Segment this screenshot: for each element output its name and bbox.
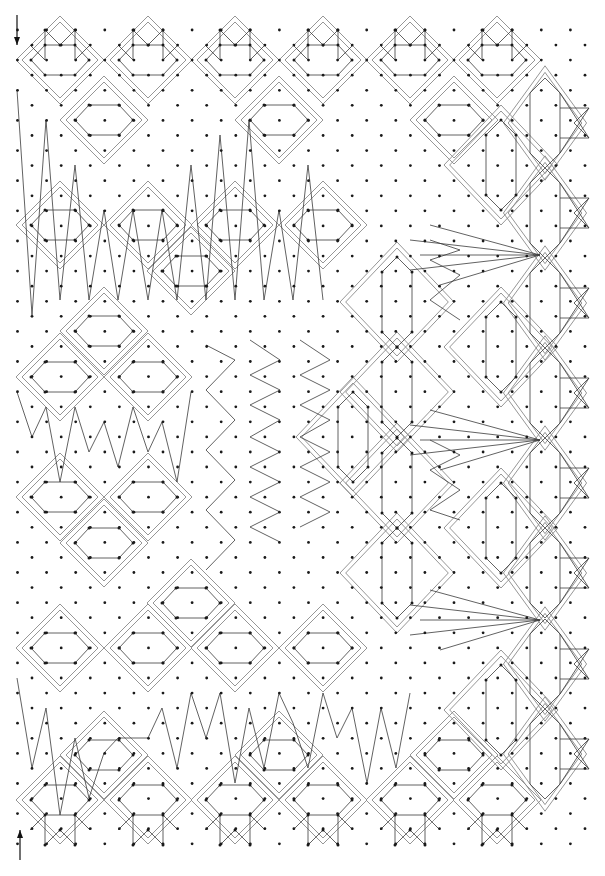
pin-dot	[60, 496, 63, 499]
pin-dot	[424, 119, 427, 122]
pin-dot	[89, 586, 92, 589]
pin-dot	[147, 586, 150, 589]
pin-dot	[60, 345, 63, 348]
pin-dot	[453, 300, 456, 303]
pin-dot	[500, 209, 503, 212]
pin-dot	[351, 526, 354, 529]
start-arrow-head-icon	[14, 37, 20, 45]
pin-dot	[118, 194, 121, 197]
pin-dot	[278, 481, 281, 484]
pin-dot	[540, 119, 543, 122]
pin-dot	[569, 631, 572, 634]
pin-dot	[219, 270, 222, 273]
pin-dot	[307, 814, 310, 817]
pin-dot	[147, 134, 150, 137]
pin-dot	[569, 812, 572, 815]
pin-dot	[89, 707, 92, 710]
pin-dot	[394, 119, 397, 122]
pin-dot	[438, 104, 441, 107]
pin-dot	[365, 360, 368, 363]
pin-dot	[438, 134, 441, 137]
pin-dot	[409, 647, 412, 650]
pin-dot	[118, 59, 121, 62]
pin-dot	[118, 739, 121, 742]
pin-dot	[263, 224, 266, 227]
pin-dot	[569, 240, 572, 243]
pin-dot	[74, 361, 77, 364]
pin-dot	[118, 315, 121, 318]
pin-dot	[424, 662, 427, 665]
pin-dot	[438, 799, 441, 802]
pin-dot	[411, 421, 414, 424]
diamond-frame	[508, 252, 582, 353]
pin-dot	[293, 707, 296, 710]
pin-dot	[336, 511, 339, 514]
pin-dot	[205, 44, 208, 47]
pin-dot	[381, 361, 384, 364]
pin-dot	[191, 29, 194, 32]
pin-dot	[60, 74, 63, 77]
pin-dot	[467, 74, 470, 77]
pin-dot	[234, 285, 237, 288]
pin-dot	[205, 285, 208, 288]
pin-dot	[307, 390, 310, 393]
pin-dot	[176, 405, 179, 408]
pin-dot	[511, 300, 514, 303]
pin-dot	[234, 44, 237, 47]
pin-dot	[103, 240, 106, 243]
pin-dot	[220, 571, 223, 574]
pin-dot	[191, 842, 194, 845]
pin-dot	[293, 74, 296, 77]
pin-dot	[118, 707, 121, 710]
pin-dot	[555, 677, 558, 680]
pin-dot	[485, 679, 488, 682]
pin-dot	[511, 89, 514, 92]
pin-dot	[205, 677, 208, 680]
pin-dot	[336, 541, 339, 544]
pin-dot	[191, 571, 194, 574]
pin-dot	[16, 179, 19, 182]
pin-dot	[351, 285, 354, 288]
pin-dot	[453, 420, 456, 423]
pin-dot	[500, 391, 503, 394]
pin-dot	[394, 451, 397, 454]
pin-dot	[103, 541, 106, 544]
pin-dot	[205, 134, 208, 137]
pin-dot	[16, 722, 19, 725]
pin-dot	[103, 842, 106, 845]
pin-dot	[584, 707, 587, 710]
pin-dot	[511, 390, 514, 393]
pin-dot	[365, 481, 368, 484]
pin-dot	[409, 104, 412, 107]
pin-dot	[365, 631, 368, 634]
pin-dot	[16, 149, 19, 152]
pin-dot	[555, 104, 558, 107]
pin-dot	[176, 345, 179, 348]
pin-dot	[584, 496, 587, 499]
pin-dot	[380, 799, 383, 802]
pin-dot	[394, 330, 397, 333]
pin-dot	[515, 376, 518, 379]
pin-dot	[336, 451, 339, 454]
pin-dot	[322, 255, 325, 258]
pin-dot	[162, 420, 165, 423]
pin-dot	[525, 44, 528, 47]
pin-dot	[525, 616, 528, 619]
pin-dot	[482, 209, 485, 212]
pin-dot	[365, 541, 368, 544]
zigzag-thread	[206, 345, 235, 570]
pin-dot	[438, 526, 441, 529]
pin-dot	[31, 134, 34, 137]
pin-dot	[263, 799, 266, 802]
pin-dot	[424, 44, 427, 47]
pin-dot	[409, 526, 412, 529]
pin-dot	[219, 239, 222, 242]
lace-pricking-diagram	[0, 0, 605, 876]
pin-dot	[176, 164, 179, 167]
pin-dot	[176, 376, 179, 379]
pin-dot	[162, 29, 165, 32]
pin-dot	[16, 692, 19, 695]
pin-dot	[540, 812, 543, 815]
pin-dot	[16, 541, 19, 544]
pin-dot	[278, 752, 281, 755]
